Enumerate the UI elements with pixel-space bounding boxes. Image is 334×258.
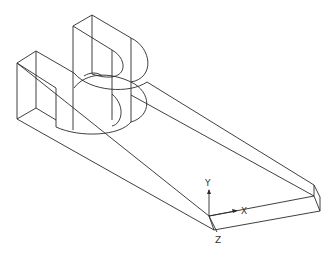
y-axis-label: Y xyxy=(204,178,211,188)
cad-viewport[interactable]: Y X Z xyxy=(0,0,334,258)
y-axis-arrow-icon xyxy=(207,189,211,194)
wireframe-drawing: Y X Z xyxy=(0,0,334,258)
half-cylinders xyxy=(56,38,148,134)
left-block xyxy=(17,51,74,127)
z-axis-label: Z xyxy=(215,235,221,245)
ucs-icon: Y X Z xyxy=(204,178,247,245)
upper-block xyxy=(73,15,131,130)
x-axis-label: X xyxy=(241,206,247,216)
base-plate xyxy=(17,63,320,230)
